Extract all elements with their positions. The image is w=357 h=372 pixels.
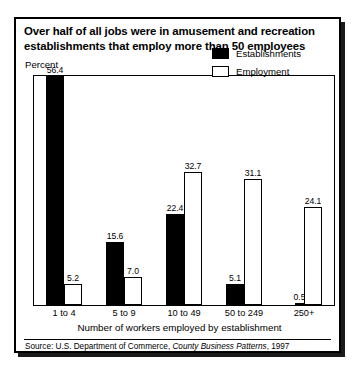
bar-establishments-50-to-249 (226, 284, 244, 305)
bar-value-label: 56.4 (47, 65, 64, 75)
bar-value-label: 5.1 (229, 273, 241, 283)
x-axis-tick-labels: 1 to 45 to 910 to 4950 to 249250+ (33, 308, 335, 322)
bar-value-label: 22.4 (167, 203, 184, 213)
bar-employment-250+ (304, 207, 322, 305)
source-note: Source: U.S. Department of Commerce, Cou… (25, 342, 289, 351)
legend-item-employment: Employment (212, 66, 301, 77)
source-divider (24, 339, 331, 340)
chart-legend: Establishments Employment (212, 48, 301, 84)
bar-employment-10-to-49 (184, 172, 202, 305)
bar-employment-1-to-4 (64, 284, 82, 305)
bar-establishments-10-to-49 (166, 214, 184, 305)
source-publication: County Business Patterns (172, 342, 266, 351)
bar-employment-5-to-9 (124, 277, 142, 305)
legend-label-establishments: Establishments (236, 48, 301, 59)
bar-employment-50-to-249 (244, 179, 262, 305)
legend-item-establishments: Establishments (212, 48, 301, 59)
x-tick-label-50-to-249: 50 to 249 (225, 308, 263, 318)
figure-drop-shadow-right (341, 22, 345, 357)
bar-value-label: 7.0 (127, 266, 139, 276)
plot-frame: 56.45.215.67.022.432.75.131.10.524.1 (33, 75, 335, 306)
x-tick-label-5-to-9: 5 to 9 (113, 308, 136, 318)
plot-area: 56.45.215.67.022.432.75.131.10.524.1 (34, 76, 334, 305)
bar-value-label: 32.7 (185, 161, 202, 171)
chart-figure: Over half of all jobs were in amusement … (14, 17, 341, 353)
x-tick-label-1-to-4: 1 to 4 (53, 308, 76, 318)
bar-value-label: 15.6 (107, 231, 124, 241)
bar-establishments-1-to-4 (46, 76, 64, 305)
figure-drop-shadow-bottom (18, 353, 345, 357)
bar-establishments-5-to-9 (106, 242, 124, 305)
source-suffix: , 1997 (267, 342, 290, 351)
x-tick-label-250+: 250+ (294, 308, 315, 318)
bar-value-label: 5.2 (67, 273, 79, 283)
legend-swatch-employment-icon (212, 66, 229, 77)
bar-value-label: 24.1 (305, 196, 322, 206)
source-prefix: Source: U.S. Department of Commerce, (25, 342, 172, 351)
bar-value-label: 31.1 (245, 168, 262, 178)
legend-label-employment: Employment (236, 66, 289, 77)
x-tick-label-10-to-49: 10 to 49 (167, 308, 200, 318)
x-axis-title: Number of workers employed by establishm… (16, 322, 343, 333)
legend-swatch-establishments-icon (212, 48, 229, 59)
bar-establishments-250+ (295, 303, 304, 305)
